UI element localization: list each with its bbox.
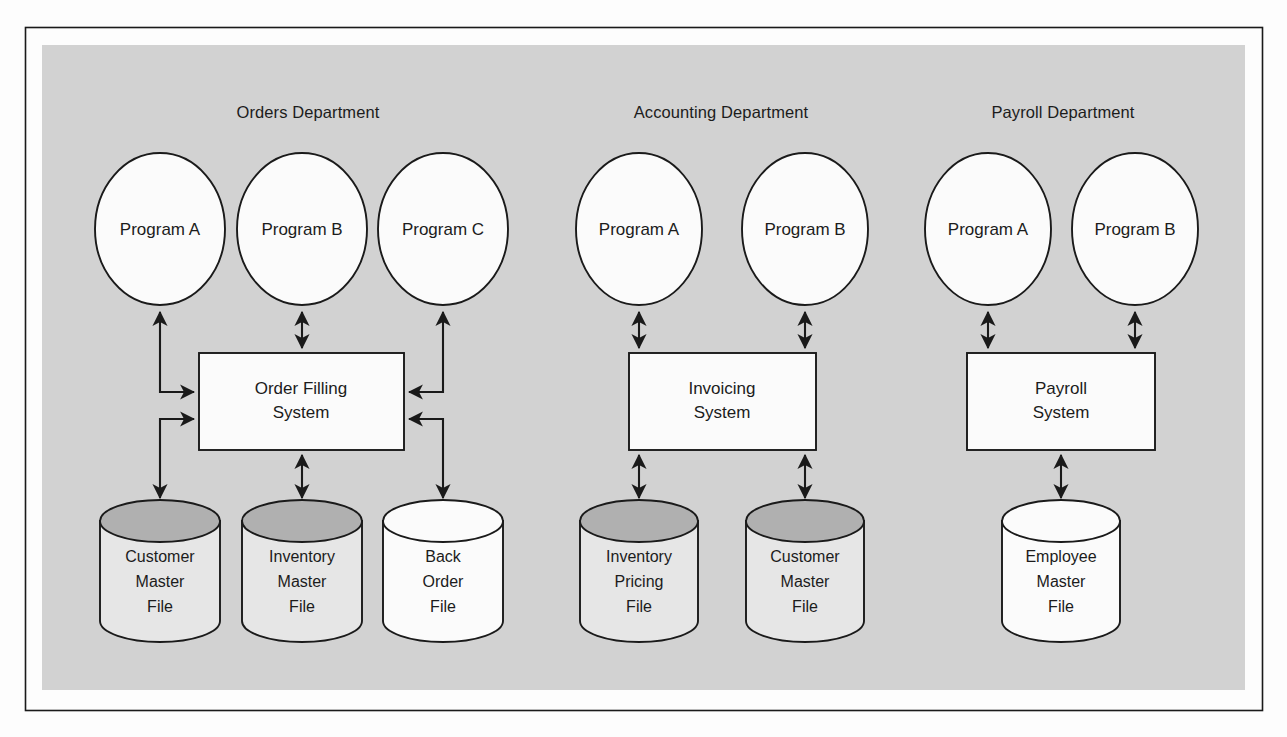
program-node-accounting-b[interactable]: Program B — [742, 153, 868, 305]
program-label: Program B — [1094, 220, 1175, 239]
department-title-accounting: Accounting Department — [634, 103, 809, 121]
department-title-orders: Orders Department — [237, 103, 380, 121]
datastore-label-line3: File — [626, 598, 652, 615]
program-node-orders-b[interactable]: Program B — [237, 153, 367, 305]
datastore-label-line1: Customer — [770, 548, 840, 565]
program-node-payroll-b[interactable]: Program B — [1072, 153, 1198, 305]
cylinder-top — [580, 500, 698, 542]
program-node-payroll-a[interactable]: Program A — [925, 153, 1051, 305]
cylinder-top — [100, 500, 220, 542]
system-box-payroll[interactable]: Payroll System — [967, 353, 1155, 450]
cylinder-top — [383, 500, 503, 542]
datastore-customer-master-file-orders[interactable]: Customer Master File — [100, 500, 220, 642]
box-shape — [967, 353, 1155, 450]
system-label-line1: Order Filling — [255, 379, 348, 398]
datastore-label-line1: Inventory — [269, 548, 335, 565]
program-label: Program C — [402, 220, 484, 239]
program-label: Program A — [599, 220, 680, 239]
datastore-label-line2: Pricing — [615, 573, 664, 590]
datastore-label-line2: Master — [136, 573, 186, 590]
box-shape — [199, 353, 404, 450]
program-label: Program A — [120, 220, 201, 239]
datastore-inventory-master-file-orders[interactable]: Inventory Master File — [242, 500, 362, 642]
datastore-label-line1: Inventory — [606, 548, 672, 565]
system-label-line1: Invoicing — [688, 379, 755, 398]
system-architecture-diagram: Orders Department Program A Program B Pr… — [0, 0, 1287, 737]
program-label: Program B — [261, 220, 342, 239]
system-label-line2: System — [1033, 403, 1090, 422]
system-box-invoicing[interactable]: Invoicing System — [629, 353, 816, 450]
program-node-orders-c[interactable]: Program C — [378, 153, 508, 305]
datastore-label-line3: File — [792, 598, 818, 615]
system-label-line1: Payroll — [1035, 379, 1087, 398]
datastore-label-line1: Back — [425, 548, 462, 565]
datastore-back-order-file-orders[interactable]: Back Order File — [383, 500, 503, 642]
datastore-label-line2: Master — [1037, 573, 1087, 590]
box-shape — [629, 353, 816, 450]
program-node-accounting-a[interactable]: Program A — [576, 153, 702, 305]
system-label-line2: System — [694, 403, 751, 422]
datastore-label-line2: Order — [423, 573, 465, 590]
datastore-employee-master-file[interactable]: Employee Master File — [1002, 500, 1120, 642]
datastore-customer-master-file-accounting[interactable]: Customer Master File — [746, 500, 864, 642]
datastore-label-line3: File — [1048, 598, 1074, 615]
datastore-label-line3: File — [147, 598, 173, 615]
datastore-inventory-pricing-file[interactable]: Inventory Pricing File — [580, 500, 698, 642]
program-label: Program A — [948, 220, 1029, 239]
department-title-payroll: Payroll Department — [991, 103, 1134, 121]
datastore-label-line2: Master — [781, 573, 831, 590]
program-label: Program B — [764, 220, 845, 239]
cylinder-top — [242, 500, 362, 542]
program-node-orders-a[interactable]: Program A — [95, 153, 225, 305]
cylinder-top — [1002, 500, 1120, 542]
datastore-label-line2: Master — [278, 573, 328, 590]
figure-root: Orders Department Program A Program B Pr… — [0, 0, 1287, 737]
system-label-line2: System — [273, 403, 330, 422]
datastore-label-line1: Employee — [1025, 548, 1096, 565]
datastore-label-line3: File — [289, 598, 315, 615]
system-box-order-filling[interactable]: Order Filling System — [199, 353, 404, 450]
cylinder-top — [746, 500, 864, 542]
datastore-label-line1: Customer — [125, 548, 195, 565]
datastore-label-line3: File — [430, 598, 456, 615]
